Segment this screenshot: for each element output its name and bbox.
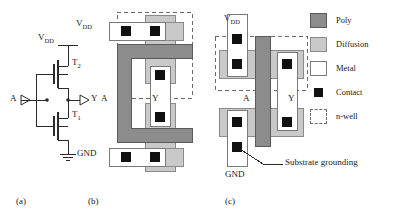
legend-label-metal: Metal <box>336 63 356 73</box>
figure-cmos-inverter: VDD A Y T2 T1 <box>0 0 401 218</box>
contact <box>155 70 165 80</box>
caption-b: (b) <box>88 196 99 206</box>
legend-label-nwell: n-well <box>336 111 358 121</box>
contact <box>121 152 131 162</box>
contact <box>150 152 160 162</box>
schematic-input-label: A <box>10 93 17 103</box>
schematic-diagram <box>0 14 110 194</box>
junction-dot-input <box>45 98 49 102</box>
contact <box>232 59 242 69</box>
schematic-output-label: Y <box>91 93 98 103</box>
caption-a: (a) <box>16 196 26 206</box>
contact <box>150 26 160 36</box>
contact <box>282 117 292 127</box>
schematic-pmos-label: T2 <box>72 57 81 69</box>
contact <box>232 34 242 44</box>
poly-swatch <box>310 13 327 28</box>
output-port-marker <box>80 95 89 105</box>
legend-item-poly: Poly <box>310 8 400 32</box>
contact-swatch <box>310 85 327 100</box>
layout-b-input-label: A <box>101 93 108 103</box>
layout-c-vdd-label: VDD <box>224 13 240 25</box>
contact <box>155 112 165 122</box>
contact <box>121 26 131 36</box>
contact <box>282 59 292 69</box>
legend-item-contact: Contact <box>310 80 400 104</box>
layout-c-output-label: Y <box>288 93 295 103</box>
legend-item-metal: Metal <box>310 56 400 80</box>
legend-item-nwell: n-well <box>310 104 400 128</box>
poly-gate-c <box>255 36 270 146</box>
substrate-grounding-annotation: Substrate grounding <box>285 157 358 167</box>
layout-c-input-label: A <box>243 93 250 103</box>
caption-c: (c) <box>225 196 235 206</box>
junction-dot-output <box>66 98 70 102</box>
diffusion-swatch <box>310 37 327 52</box>
legend-label-contact: Contact <box>336 87 362 97</box>
schematic-vdd-label: VDD <box>38 32 54 44</box>
legend: Poly Diffusion Metal Contact n-well <box>310 8 400 128</box>
legend-label-diffusion: Diffusion <box>336 39 368 49</box>
layout-b-gnd-label: GND <box>77 148 97 158</box>
legend-label-poly: Poly <box>336 15 352 25</box>
legend-item-diffusion: Diffusion <box>310 32 400 56</box>
contact <box>232 117 242 127</box>
metal-swatch <box>310 61 327 76</box>
layout-c-gnd-label: GND <box>225 169 245 179</box>
substrate-ground-contact <box>232 142 242 152</box>
layout-b-vdd-label: VDD <box>76 18 92 30</box>
schematic-nmos-label: T1 <box>72 109 81 121</box>
nwell-swatch <box>310 109 327 124</box>
layout-b-output-label: Y <box>152 93 159 103</box>
